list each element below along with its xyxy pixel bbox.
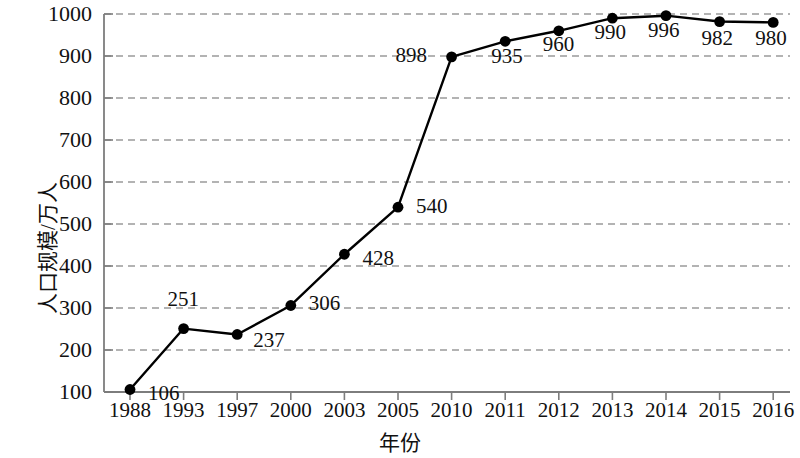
data-point-label: 996 bbox=[648, 20, 680, 41]
data-point-label: 306 bbox=[309, 293, 341, 314]
data-point-label: 982 bbox=[702, 28, 734, 49]
data-point-marker bbox=[339, 249, 350, 260]
x-axis-tick-marks bbox=[130, 392, 773, 400]
data-point-label: 990 bbox=[594, 22, 626, 43]
data-point-label: 237 bbox=[253, 330, 285, 351]
data-point-label: 980 bbox=[755, 28, 787, 49]
data-point-label: 960 bbox=[543, 34, 575, 55]
data-point-marker bbox=[446, 51, 457, 62]
data-point-marker bbox=[125, 384, 136, 395]
data-point-markers bbox=[125, 10, 779, 395]
data-point-label: 540 bbox=[416, 196, 448, 217]
data-point-label: 935 bbox=[491, 46, 523, 67]
data-point-marker bbox=[178, 323, 189, 334]
data-point-marker bbox=[285, 300, 296, 311]
data-point-marker bbox=[232, 329, 243, 340]
data-point-label: 106 bbox=[148, 383, 180, 404]
y-axis-tick-marks bbox=[104, 14, 113, 392]
data-point-label: 251 bbox=[168, 289, 200, 310]
data-point-label: 898 bbox=[396, 45, 428, 66]
data-point-label: 428 bbox=[362, 248, 394, 269]
population-line-chart: 人口规模/万人 年份 10020030040050060070080090010… bbox=[0, 0, 800, 458]
data-point-marker bbox=[393, 202, 404, 213]
data-line bbox=[130, 16, 773, 390]
plot-area bbox=[0, 0, 800, 458]
